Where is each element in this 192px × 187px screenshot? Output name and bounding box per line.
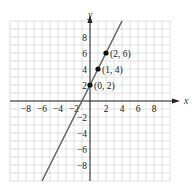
- y-axis-label: y: [87, 9, 93, 20]
- y-tick-label: 2: [82, 81, 87, 91]
- y-tick-label: 8: [82, 33, 87, 43]
- point-label: (0, 2): [94, 81, 115, 92]
- point-label: (1, 4): [102, 65, 123, 76]
- coordinate-plane: x y −8−6−4−224688642−2−4−6−8 (0, 2)(1, 4…: [0, 0, 192, 187]
- y-tick-label: −6: [77, 145, 87, 155]
- y-tick-label: −4: [77, 129, 87, 139]
- x-tick-label: 6: [136, 104, 141, 114]
- x-tick-label: 4: [120, 104, 125, 114]
- x-axis-label: x: [183, 95, 189, 106]
- y-tick-label: 6: [82, 49, 87, 59]
- data-point: [87, 82, 92, 87]
- y-tick-label: −8: [77, 161, 87, 171]
- x-tick-label: −8: [21, 104, 31, 114]
- data-point: [95, 66, 100, 71]
- x-axis-arrow-icon: [172, 99, 180, 104]
- data-point: [103, 50, 108, 55]
- x-tick-label: −6: [37, 104, 47, 114]
- y-tick-label: 4: [82, 65, 87, 75]
- x-tick-label: 8: [152, 104, 157, 114]
- point-label: (2, 6): [110, 49, 131, 60]
- x-tick-label: −4: [53, 104, 63, 114]
- y-tick-label: −2: [77, 113, 87, 123]
- x-tick-label: 2: [104, 104, 109, 114]
